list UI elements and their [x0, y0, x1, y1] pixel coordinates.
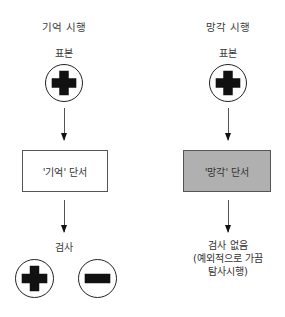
test-plus-icon: [15, 259, 54, 298]
forget-cue-label: '망각' 단서: [205, 164, 250, 179]
memory-cue-label: '기억' 단서: [43, 164, 88, 179]
forget-trial-title: 망각 시행: [206, 21, 249, 33]
forget-outcome-text: 검사 없음 (예외적으로 가끔 탐사시행): [193, 239, 263, 278]
forget-arrow-down-2: [228, 200, 229, 232]
memory-trial-sample-label: 표본: [55, 48, 73, 60]
forget-cue-box: '망각' 단서: [183, 150, 271, 192]
memory-arrow-down-2: [64, 200, 65, 232]
test-minus-icon: [78, 259, 117, 298]
forget-sample-plus-icon: [209, 64, 247, 102]
memory-sample-plus-icon: [45, 64, 83, 102]
memory-trial-title: 기억 시행: [42, 21, 85, 33]
forget-trial-sample-label: 표본: [219, 48, 237, 60]
memory-test-label: 검사: [55, 242, 73, 254]
forget-outcome-line-1: 검사 없음: [193, 239, 263, 252]
forget-outcome-line-3: 탐사시행): [193, 265, 263, 278]
forget-arrow-down-1: [228, 108, 229, 140]
memory-cue-box: '기억' 단서: [22, 150, 108, 192]
forget-outcome-line-2: (예외적으로 가끔: [193, 252, 263, 265]
memory-arrow-down-1: [64, 108, 65, 140]
